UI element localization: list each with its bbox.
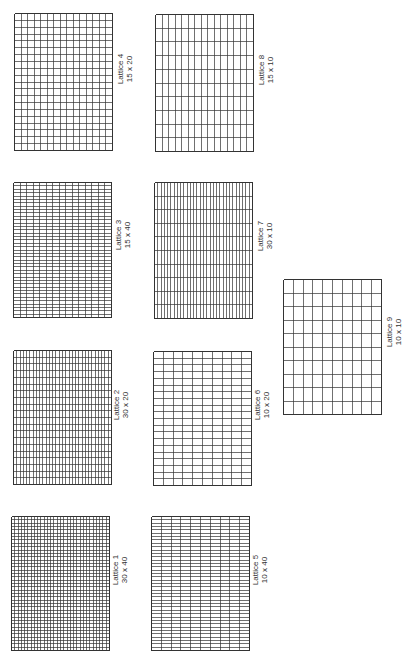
lattice-dimensions: 15 x 10 xyxy=(266,40,275,100)
lattice-title: Lattice 5 xyxy=(251,540,260,600)
lattice-dimensions: 10 x 40 xyxy=(260,540,269,600)
lattice-2-grid xyxy=(13,350,112,485)
lattice-4-label: Lattice 415 x 20 xyxy=(116,39,134,99)
lattice-dimensions: 10 x 20 xyxy=(262,375,271,435)
lattice-title: Lattice 9 xyxy=(385,302,394,362)
lattice-7-grid xyxy=(154,182,253,319)
lattice-dimensions: 15 x 40 xyxy=(123,205,132,265)
lattice-8-label: Lattice 815 x 10 xyxy=(257,40,275,100)
lattice-title: Lattice 4 xyxy=(116,39,125,99)
lattice-title: Lattice 1 xyxy=(111,540,120,600)
lattice-title: Lattice 6 xyxy=(253,375,262,435)
lattice-6-label: Lattice 610 x 20 xyxy=(253,375,271,435)
lattice-9-grid xyxy=(283,279,382,415)
lattice-title: Lattice 7 xyxy=(256,206,265,266)
lattice-6-grid xyxy=(153,351,252,486)
lattice-1-grid xyxy=(11,516,110,651)
lattice-dimensions: 15 x 20 xyxy=(125,39,134,99)
lattice-dimensions: 30 x 40 xyxy=(120,540,129,600)
lattice-3-grid xyxy=(13,182,112,318)
lattice-dimensions: 30 x 10 xyxy=(265,206,274,266)
lattice-7-label: Lattice 730 x 10 xyxy=(256,206,274,266)
lattice-8-grid xyxy=(155,14,254,152)
lattice-9-label: Lattice 910 x 10 xyxy=(385,302,402,362)
lattice-2-label: Lattice 230 x 20 xyxy=(112,375,130,435)
lattice-5-label: Lattice 510 x 40 xyxy=(251,540,269,600)
lattice-5-grid xyxy=(151,516,250,651)
lattice-title: Lattice 2 xyxy=(112,375,121,435)
lattice-4-grid xyxy=(14,13,113,151)
lattice-title: Lattice 8 xyxy=(257,40,266,100)
lattice-1-label: Lattice 130 x 40 xyxy=(111,540,129,600)
lattice-title: Lattice 3 xyxy=(114,205,123,265)
lattice-dimensions: 10 x 10 xyxy=(394,302,402,362)
lattice-dimensions: 30 x 20 xyxy=(121,375,130,435)
lattice-3-label: Lattice 315 x 40 xyxy=(114,205,132,265)
